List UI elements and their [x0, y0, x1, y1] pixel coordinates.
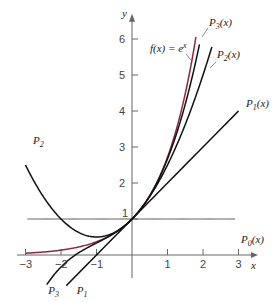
p3-label: P3(x) — [208, 16, 232, 31]
y-tick-label: 3 — [119, 141, 125, 153]
p2-label: P2(x) — [216, 48, 240, 63]
y-axis-label: y — [121, 7, 127, 19]
x-tick-label: −2 — [55, 258, 68, 270]
y-tick-label: 1 — [122, 207, 128, 219]
exp-label: f(x) = ex — [150, 41, 187, 55]
p3-leader — [202, 28, 208, 37]
y-tick-label: 6 — [119, 33, 125, 45]
p2-leader — [210, 62, 216, 68]
x-tick-label: 2 — [200, 258, 206, 270]
curve-p1-x- — [66, 111, 238, 286]
p1-label: P1(x) — [245, 97, 269, 112]
y-tick-label: 5 — [119, 69, 125, 81]
curve-f-x-e-x — [26, 37, 196, 253]
p0-label: P0(x) — [240, 233, 264, 248]
x-tick-label: 3 — [236, 258, 242, 270]
y-tick-label: 4 — [119, 105, 125, 117]
annotation-p2: P2 — [32, 134, 44, 149]
annotation-p1: P1 — [76, 284, 88, 299]
x-tick-label: −3 — [20, 258, 33, 270]
x-tick-label: 1 — [165, 258, 171, 270]
y-tick-label: 2 — [119, 177, 125, 189]
x-axis-arrow-icon — [251, 252, 258, 258]
exp-leader — [186, 54, 191, 60]
annotation-p3: P3 — [47, 284, 59, 299]
taylor-polynomials-chart: −3−2−1123123456 xyf(x) = exP3(x)P2(x)P1(… — [0, 0, 279, 302]
y-axis-arrow-icon — [129, 14, 135, 22]
x-axis-label: x — [250, 259, 256, 271]
